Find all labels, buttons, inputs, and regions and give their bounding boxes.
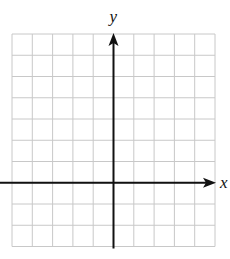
coordinate-plane: x y (0, 0, 230, 259)
x-axis-label: x (219, 173, 228, 192)
y-axis-label: y (108, 7, 118, 26)
axes: x y (0, 7, 228, 249)
